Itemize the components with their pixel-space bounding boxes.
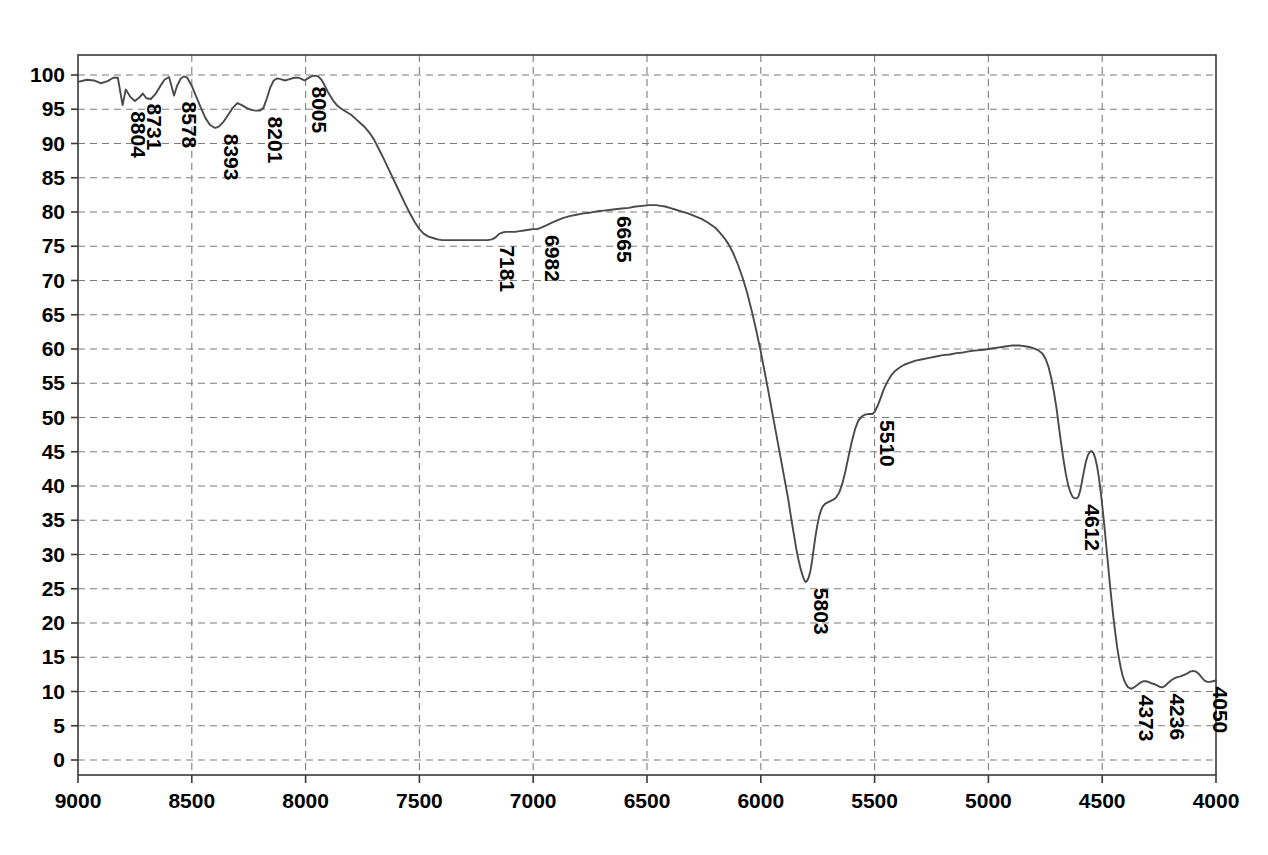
x-tick-label: 6500 xyxy=(624,789,671,812)
y-tick-label: 20 xyxy=(42,611,65,634)
grid-lines xyxy=(78,55,1216,775)
peak-label-6665: 6665 xyxy=(613,216,636,263)
y-tick-label: 25 xyxy=(42,577,66,600)
y-tick-label: 80 xyxy=(42,200,65,223)
y-tick-label: 90 xyxy=(42,132,65,155)
x-tick-label: 6000 xyxy=(737,789,784,812)
x-tick-label: 7000 xyxy=(510,789,557,812)
y-tick-label: 55 xyxy=(42,371,66,394)
x-tick-label: 8500 xyxy=(168,789,215,812)
x-tick-label: 9000 xyxy=(55,789,102,812)
peak-label-6982: 6982 xyxy=(541,235,564,282)
x-tick-label: 5500 xyxy=(851,789,898,812)
peak-label-8005: 8005 xyxy=(308,86,331,133)
y-tick-label: 85 xyxy=(42,166,66,189)
y-tick-label: 15 xyxy=(42,645,66,668)
x-tick-label: 8000 xyxy=(282,789,329,812)
y-tick-label: 100 xyxy=(30,63,65,86)
y-tick-label: 40 xyxy=(42,474,65,497)
nir-spectrum-chart: 0510152025303540455055606570758085909510… xyxy=(0,0,1268,855)
y-tick-label: 5 xyxy=(53,714,65,737)
y-tick-label: 60 xyxy=(42,337,65,360)
y-tick-label: 0 xyxy=(53,748,65,771)
y-tick-label: 75 xyxy=(42,234,66,257)
peak-label-4236: 4236 xyxy=(1166,693,1189,740)
peak-label-8201: 8201 xyxy=(264,117,287,164)
y-tick-label: 30 xyxy=(42,543,65,566)
y-tick-label: 10 xyxy=(42,680,65,703)
peak-label-5803: 5803 xyxy=(810,588,833,635)
y-tick-label: 35 xyxy=(42,508,66,531)
x-tick-label: 7500 xyxy=(396,789,443,812)
peak-label-4373: 4373 xyxy=(1135,695,1158,742)
x-axis-tick-labels: 9000850080007500700065006000550050004500… xyxy=(55,789,1240,812)
y-tick-label: 95 xyxy=(42,97,66,120)
peak-label-7181: 7181 xyxy=(496,245,519,292)
peak-label-4050: 4050 xyxy=(1209,687,1232,734)
spectrum-plot-area: 0510152025303540455055606570758085909510… xyxy=(0,0,1268,855)
x-tick-label: 5000 xyxy=(965,789,1012,812)
peak-label-8731: 8731 xyxy=(143,104,166,151)
peak-label-4612: 4612 xyxy=(1081,504,1104,551)
peak-label-5510: 5510 xyxy=(876,420,899,467)
x-tick-label: 4000 xyxy=(1193,789,1240,812)
peak-annotation-labels: 8804873185788393820180057181698266655803… xyxy=(127,86,1232,741)
peak-label-8393: 8393 xyxy=(220,134,243,181)
y-tick-label: 50 xyxy=(42,406,65,429)
x-tick-label: 4500 xyxy=(1079,789,1126,812)
y-axis-tick-labels: 0510152025303540455055606570758085909510… xyxy=(30,63,65,771)
y-tick-label: 45 xyxy=(42,440,66,463)
peak-label-8578: 8578 xyxy=(178,102,201,149)
y-tick-label: 70 xyxy=(42,269,65,292)
y-tick-label: 65 xyxy=(42,303,66,326)
axis-ticks xyxy=(71,75,1216,783)
